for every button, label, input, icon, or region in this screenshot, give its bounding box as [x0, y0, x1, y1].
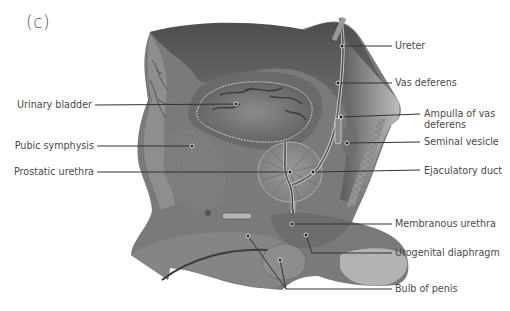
label-urogenital-diaphragm: Urogenital diaphragm: [395, 247, 500, 258]
seminal-vesicle-shape: [342, 124, 358, 156]
label-ampulla-of-vas-deferens: Ampulla of vas deferens: [424, 108, 495, 130]
label-vas-deferens: Vas deferens: [395, 77, 457, 88]
label-pubic-symphysis: Pubic symphysis: [15, 140, 94, 151]
ampulla-shape: [335, 118, 341, 144]
panel-label: (c): [26, 12, 50, 32]
label-ejaculatory-duct: Ejaculatory duct: [424, 165, 502, 176]
label-prostatic-urethra: Prostatic urethra: [14, 166, 94, 177]
label-seminal-vesicle: Seminal vesicle: [424, 136, 499, 147]
label-ampulla-line2: deferens: [424, 119, 495, 130]
label-bulb-of-penis: Bulb of penis: [395, 283, 458, 294]
anatomy-figure: (c) Urinary bladder Pubic symphysis Pros…: [0, 0, 510, 311]
dorsal-vessel: [222, 213, 252, 219]
label-ureter: Ureter: [395, 40, 425, 51]
male-pelvis-sagittal-section: [0, 0, 510, 311]
dorsal-vein: [205, 210, 211, 216]
label-membranous-urethra: Membranous urethra: [395, 218, 496, 229]
label-ampulla-line1: Ampulla of vas: [424, 108, 495, 119]
bulb-of-penis-shape: [262, 244, 306, 280]
label-urinary-bladder: Urinary bladder: [17, 99, 92, 110]
